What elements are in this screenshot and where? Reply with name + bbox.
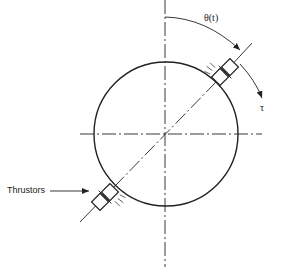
satellite-attitude-diagram: θ(t) τ Thrustors (0, 0, 288, 267)
angle-arc-arrow (165, 17, 240, 50)
thrusters-label: Thrustors (7, 185, 45, 195)
thruster-upper-right (203, 51, 240, 88)
diagram-canvas (0, 0, 288, 267)
angle-label: θ(t) (204, 12, 218, 23)
thruster-lower-left (89, 181, 126, 218)
torque-arc-arrow (240, 64, 262, 98)
torque-label: τ (260, 102, 264, 113)
